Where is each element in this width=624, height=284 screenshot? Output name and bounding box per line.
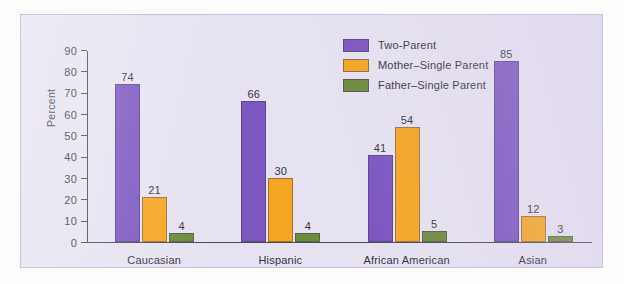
y-tick: 80 bbox=[81, 71, 87, 72]
legend-swatch bbox=[343, 39, 369, 52]
bar-value-label: 5 bbox=[431, 218, 437, 230]
y-tick-label: 0 bbox=[71, 237, 77, 249]
y-tick-label: 30 bbox=[64, 173, 77, 185]
bar-value-label: 4 bbox=[178, 220, 184, 232]
y-axis-line bbox=[87, 51, 88, 243]
bar: 4 bbox=[169, 233, 194, 242]
bar-value-label: 54 bbox=[401, 114, 414, 126]
y-tick: 70 bbox=[81, 93, 87, 94]
bar: 3 bbox=[548, 236, 573, 242]
legend-label: Mother–Single Parent bbox=[378, 59, 488, 71]
y-tick: 10 bbox=[81, 221, 87, 222]
chart-legend: Two-ParentMother–Single ParentFather–Sin… bbox=[343, 35, 488, 95]
y-tick-label: 90 bbox=[64, 45, 77, 57]
y-tick-label: 10 bbox=[64, 215, 77, 227]
bar: 85 bbox=[494, 61, 519, 242]
y-tick: 20 bbox=[81, 199, 87, 200]
bar-value-label: 12 bbox=[527, 203, 540, 215]
y-tick: 90 bbox=[81, 50, 87, 51]
bar: 4 bbox=[295, 233, 320, 242]
x-category-label: Asian bbox=[519, 254, 548, 266]
x-category-label: Hispanic bbox=[258, 254, 302, 266]
bar-group: 66304Hispanic bbox=[241, 50, 319, 242]
y-tick-label: 70 bbox=[64, 87, 77, 99]
bar: 30 bbox=[268, 178, 293, 242]
bar-value-label: 74 bbox=[121, 71, 134, 83]
legend-item: Two-Parent bbox=[343, 35, 488, 55]
bar: 12 bbox=[521, 216, 546, 242]
bar-value-label: 21 bbox=[148, 184, 161, 196]
y-tick: 30 bbox=[81, 178, 87, 179]
y-axis-label: Percent bbox=[45, 89, 57, 127]
chart-panel: Percent 9080706050403020100 74214Caucasi… bbox=[20, 14, 603, 268]
y-tick-label: 60 bbox=[64, 109, 77, 121]
bar: 21 bbox=[142, 197, 167, 242]
y-tick-label: 40 bbox=[64, 151, 77, 163]
bar-group: 85123Asian bbox=[494, 50, 572, 242]
y-tick-label: 50 bbox=[64, 130, 77, 142]
bar-value-label: 41 bbox=[374, 142, 387, 154]
x-axis-line bbox=[87, 242, 592, 243]
x-category-label: Caucasian bbox=[127, 254, 181, 266]
y-tick-label: 20 bbox=[64, 194, 77, 206]
legend-label: Father–Single Parent bbox=[378, 79, 486, 91]
legend-item: Father–Single Parent bbox=[343, 75, 488, 95]
bar: 5 bbox=[422, 231, 447, 242]
chart-page: Percent 9080706050403020100 74214Caucasi… bbox=[0, 0, 624, 284]
y-tick: 50 bbox=[81, 135, 87, 136]
bar-group: 74214Caucasian bbox=[115, 50, 193, 242]
bar: 54 bbox=[395, 127, 420, 242]
y-tick: 40 bbox=[81, 157, 87, 158]
bar-value-label: 30 bbox=[275, 165, 288, 177]
bar: 41 bbox=[368, 155, 393, 242]
bar: 66 bbox=[241, 101, 266, 242]
plot-area: 9080706050403020100 74214Caucasian66304H… bbox=[87, 51, 592, 243]
legend-item: Mother–Single Parent bbox=[343, 55, 488, 75]
x-category-label: African American bbox=[363, 254, 449, 266]
bar: 74 bbox=[115, 84, 140, 242]
legend-label: Two-Parent bbox=[378, 39, 436, 51]
bar-value-label: 85 bbox=[500, 48, 513, 60]
legend-swatch bbox=[343, 59, 369, 72]
bar-value-label: 4 bbox=[305, 220, 311, 232]
legend-swatch bbox=[343, 79, 369, 92]
y-tick: 0 bbox=[81, 242, 87, 243]
bar-value-label: 66 bbox=[248, 88, 261, 100]
bar-value-label: 3 bbox=[557, 223, 563, 235]
y-tick-label: 80 bbox=[64, 66, 77, 78]
y-tick: 60 bbox=[81, 114, 87, 115]
